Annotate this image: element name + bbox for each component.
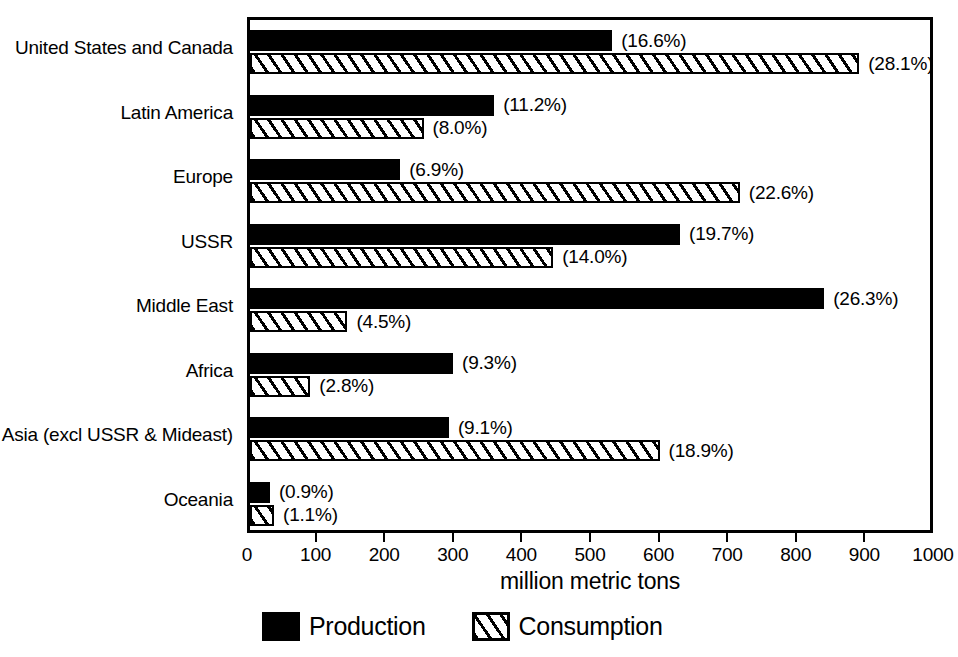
x-axis-title: million metric tons: [247, 568, 933, 595]
bar-row: (0.9%): [250, 482, 930, 503]
category-label: Oceania: [0, 489, 233, 511]
bar-value-label: (11.2%): [503, 94, 567, 116]
bar-value-label: (16.6%): [621, 30, 686, 52]
chart-legend: Production Consumption: [247, 604, 933, 648]
bar-row: (6.9%): [250, 159, 930, 180]
category-label: Africa: [0, 360, 233, 382]
bar-consumption: [250, 118, 424, 139]
bar-value-label: (18.9%): [669, 440, 734, 462]
bar-consumption: [250, 505, 274, 526]
category-axis-labels: United States and CanadaLatin AmericaEur…: [0, 17, 233, 533]
bar-row: (2.8%): [250, 376, 930, 397]
bar-value-label: (9.3%): [462, 352, 517, 374]
x-axis-tick: [383, 533, 385, 542]
x-axis-tick-label: 400: [506, 544, 537, 566]
x-axis-tick-label: 100: [300, 544, 331, 566]
x-axis-tick-label: 200: [369, 544, 400, 566]
x-axis-tick: [452, 533, 454, 542]
bar-value-label: (9.1%): [458, 417, 513, 439]
legend-entry-production: Production: [262, 612, 426, 641]
x-axis-tick: [726, 533, 728, 542]
legend-entry-consumption: Consumption: [472, 612, 663, 641]
x-axis-tick: [863, 533, 865, 542]
bar-value-label: (4.5%): [356, 311, 411, 333]
chart-root: United States and CanadaLatin AmericaEur…: [0, 0, 958, 657]
bar-value-label: (14.0%): [562, 246, 627, 268]
x-axis-tick-label: 900: [849, 544, 880, 566]
x-axis-tick-label: 0: [242, 544, 252, 566]
x-axis-tick-label: 600: [643, 544, 674, 566]
category-label: Middle East: [0, 295, 233, 317]
bar-value-label: (26.3%): [833, 288, 898, 310]
bar-row: (19.7%): [250, 224, 930, 245]
bar-value-label: (1.1%): [283, 504, 338, 526]
legend-label-production: Production: [309, 612, 426, 641]
bar-production: [250, 417, 449, 438]
bar-row: (22.6%): [250, 182, 930, 203]
x-axis-tick-label: 800: [780, 544, 811, 566]
bar-consumption: [250, 53, 859, 74]
bar-row: (16.6%): [250, 30, 930, 51]
bar-row: (4.5%): [250, 311, 930, 332]
bar-value-label: (28.1%): [868, 53, 933, 75]
bar-production: [250, 159, 400, 180]
legend-label-consumption: Consumption: [519, 612, 663, 641]
bar-value-label: (2.8%): [319, 375, 374, 397]
bar-value-label: (22.6%): [749, 182, 814, 204]
legend-swatch-consumption-icon: [472, 612, 510, 641]
bar-value-label: (19.7%): [689, 223, 754, 245]
category-label: Latin America: [0, 102, 233, 124]
bar-production: [250, 95, 494, 116]
bar-consumption: [250, 182, 740, 203]
bar-row: (9.1%): [250, 417, 930, 438]
bar-row: (8.0%): [250, 118, 930, 139]
bar-consumption: [250, 311, 347, 332]
bar-row: (26.3%): [250, 288, 930, 309]
bar-production: [250, 288, 824, 309]
bar-production: [250, 353, 453, 374]
bar-row: (9.3%): [250, 353, 930, 374]
bar-row: (14.0%): [250, 247, 930, 268]
x-axis-tick-label: 1000: [912, 544, 953, 566]
category-label: Asia (excl USSR & Mideast): [0, 424, 233, 446]
bar-consumption: [250, 247, 553, 268]
plot-area: (16.6%)(28.1%)(11.2%)(8.0%)(6.9%)(22.6%)…: [247, 17, 933, 533]
legend-swatch-production-icon: [262, 612, 300, 641]
bar-row: (18.9%): [250, 440, 930, 461]
x-axis-tick: [658, 533, 660, 542]
bar-row: (1.1%): [250, 505, 930, 526]
x-axis-tick: [315, 533, 317, 542]
category-label: United States and Canada: [0, 37, 233, 59]
bar-consumption: [250, 376, 310, 397]
bar-production: [250, 30, 612, 51]
bar-value-label: (0.9%): [279, 481, 334, 503]
x-axis-tick-label: 300: [437, 544, 468, 566]
x-axis: 01002003004005006007008009001000: [247, 533, 933, 534]
bar-row: (11.2%): [250, 95, 930, 116]
x-axis-tick: [795, 533, 797, 542]
x-axis-tick: [520, 533, 522, 542]
bar-value-label: (8.0%): [433, 117, 488, 139]
bar-row: (28.1%): [250, 53, 930, 74]
category-label: Europe: [0, 166, 233, 188]
category-label: USSR: [0, 231, 233, 253]
x-axis-tick-label: 500: [574, 544, 605, 566]
x-axis-tick-label: 700: [712, 544, 743, 566]
bar-production: [250, 224, 680, 245]
x-axis-tick: [589, 533, 591, 542]
bar-value-label: (6.9%): [409, 159, 464, 181]
bar-production: [250, 482, 270, 503]
bar-consumption: [250, 440, 660, 461]
